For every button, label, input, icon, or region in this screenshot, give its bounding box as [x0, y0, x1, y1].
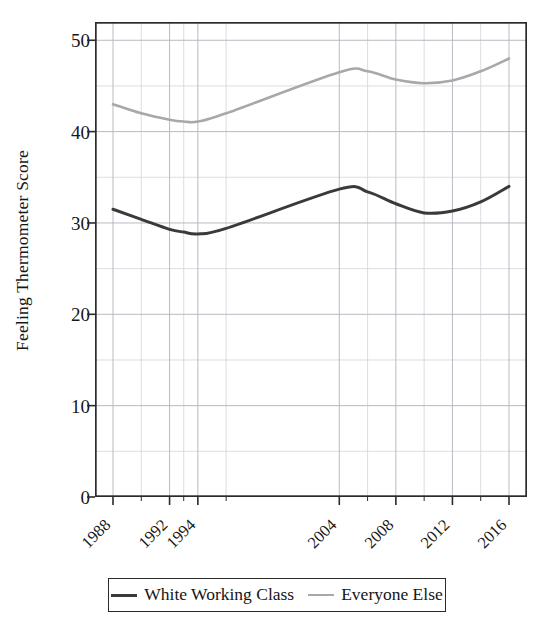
grid-major: [96, 23, 526, 497]
y-axis-title-text: Feeling Thermometer Score: [12, 149, 33, 350]
chart-legend: White Working Class Everyone Else: [108, 578, 446, 612]
y-tick-label: 0: [50, 488, 90, 507]
plot-svg: [95, 22, 527, 497]
x-tick-label: 1988: [79, 517, 114, 552]
y-tick-label: 30: [50, 214, 90, 233]
y-axis-ticks: [87, 40, 95, 497]
plot-area: [95, 22, 527, 497]
x-axis-ticks: [113, 497, 509, 505]
legend-entry-everyone-else: Everyone Else: [308, 586, 443, 604]
legend-entry-white-working-class: White Working Class: [111, 586, 294, 604]
x-tick-label: 1994: [164, 517, 199, 552]
plot-frame: [96, 23, 526, 496]
x-tick-label: 2012: [418, 517, 453, 552]
legend-line-swatch-white-working-class: [111, 594, 137, 597]
series-line-white-working-class: [113, 186, 509, 234]
legend-label-everyone-else: Everyone Else: [341, 586, 443, 604]
y-tick-label: 10: [50, 397, 90, 416]
legend-line-swatch-everyone-else: [308, 594, 334, 596]
x-tick-label: 2008: [362, 517, 397, 552]
y-tick-label: 20: [50, 305, 90, 324]
chart-figure: Feeling Thermometer Score 50403020100 19…: [0, 0, 554, 634]
y-tick-label: 50: [50, 31, 90, 50]
y-axis-tick-labels: 50403020100: [44, 0, 90, 634]
x-tick-label: 2004: [305, 517, 340, 552]
series-lines: [113, 59, 509, 235]
x-tick-label: 2016: [475, 517, 510, 552]
series-line-everyone-else: [113, 59, 509, 123]
x-tick-label: 1992: [136, 517, 171, 552]
y-axis-title: Feeling Thermometer Score: [0, 0, 44, 500]
grid-minor: [96, 23, 526, 496]
y-tick-label: 40: [50, 123, 90, 142]
legend-label-white-working-class: White Working Class: [144, 586, 294, 604]
